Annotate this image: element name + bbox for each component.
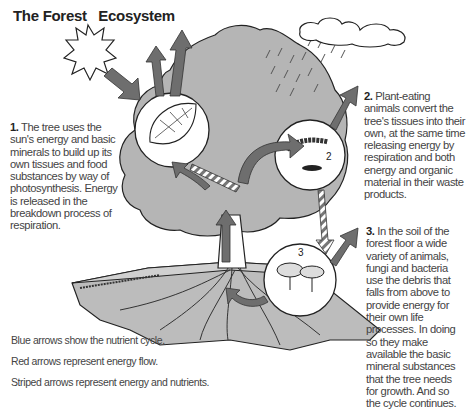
respiration-arrow-left — [146, 46, 166, 96]
leaf-circle — [135, 93, 209, 167]
rain-cloud-icon — [300, 18, 405, 47]
caption-text: In the soil of the forest floor a wide v… — [366, 225, 456, 409]
herbivore-circle: 2 — [275, 120, 345, 190]
caption-text: The tree uses the sun's energy and basic… — [10, 121, 118, 231]
caption-step-3: 3. In the soil of the forest floor a wid… — [366, 225, 466, 409]
caption-step-2: 2. Plant-eating animals convert the tree… — [364, 90, 468, 201]
sun-energy-arrow — [104, 68, 140, 100]
caption-step-1: 1. The tree uses the sun's energy and ba… — [10, 121, 122, 232]
caption-text: Plant-eating animals convert the tree's … — [364, 90, 465, 200]
soil-life-circle: 3 — [264, 244, 336, 316]
caption-number: 2. — [364, 90, 373, 102]
caption-number: 3. — [366, 225, 375, 237]
legend-nutrient-cycle: Blue arrows show the nutrient cycle. — [11, 334, 165, 346]
caption-number: 1. — [10, 121, 19, 133]
legend-energy-flow: Red arrows represent energy flow. — [11, 355, 158, 367]
svg-text:2: 2 — [326, 151, 332, 162]
svg-text:3: 3 — [298, 247, 304, 258]
soil-energy-arrow — [330, 228, 358, 266]
legend-energy-and-nutrients: Striped arrows represent energy and nutr… — [11, 376, 209, 388]
